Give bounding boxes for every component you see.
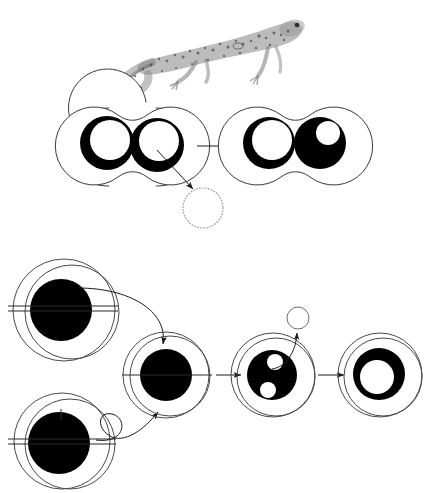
top-sequence xyxy=(55,69,372,228)
cell-nuclear-behaviour-figure xyxy=(0,0,431,493)
stage-1-lower-cell xyxy=(8,393,116,489)
nucleus-left-crescent xyxy=(80,116,134,170)
nucleus-left-crescent-stage-b xyxy=(243,117,295,169)
stage-2-fused-cell xyxy=(122,332,212,418)
bottom-sequence xyxy=(8,259,422,489)
stage-1-upper-cell xyxy=(8,259,119,361)
extruded-chromatin-body xyxy=(183,188,223,228)
stage-3-vacuolate-cell xyxy=(231,333,315,417)
newt-illustration xyxy=(122,17,307,93)
nucleus-right-crescent xyxy=(130,118,184,172)
expelled-vesicle xyxy=(287,307,309,329)
nucleus-thick-ring xyxy=(353,348,405,400)
nucleus-right-solid-vacuole xyxy=(294,117,346,169)
stage-4-annulus-cell xyxy=(338,333,422,417)
stage-b-binucleate-cell xyxy=(218,100,372,194)
stage-a-binucleate-cell xyxy=(55,69,209,194)
nucleus-solid-lower xyxy=(28,412,90,474)
